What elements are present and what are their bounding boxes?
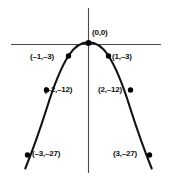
marker-pos2 [128,87,133,92]
marker-neg3 [25,152,30,157]
point-label-pos3: (3,–27) [113,150,137,158]
point-label-neg2: (–2,–12) [44,86,72,94]
marker-origin [86,40,92,46]
point-label-pos1: (1,–3) [112,53,132,61]
point-label-neg3: (–3,–27) [32,150,60,158]
graph-figure: (0,0) (–1,–3) (1,–3) (–2,–12) (2,–12) (–… [0,0,172,182]
point-label-origin: (0,0) [92,29,107,37]
point-label-pos2: (2,–12) [98,86,122,94]
parabola-plot [0,0,172,182]
marker-neg1 [66,53,71,58]
marker-pos1 [106,53,111,58]
marker-pos3 [147,152,152,157]
point-label-neg1: (–1,–3) [30,53,54,61]
